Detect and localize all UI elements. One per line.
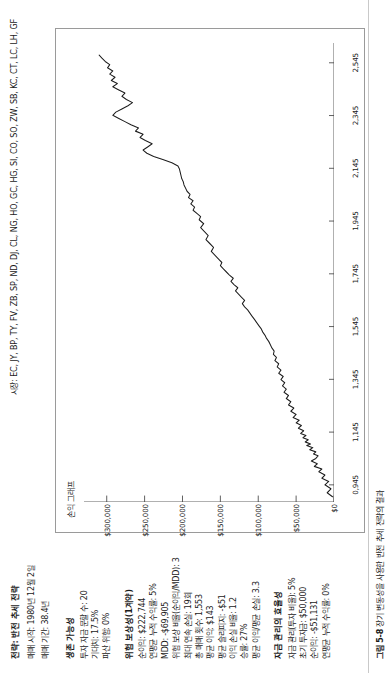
- x-axis-tick-label: 2,345: [351, 106, 360, 126]
- equity-curve-line: [99, 55, 332, 497]
- y-axis-tick-label: $200,000: [178, 504, 187, 537]
- x-axis-tick-label: 1,745: [351, 264, 360, 284]
- x-axis-tick-label: 0,945: [351, 475, 360, 495]
- stat-group-heading: 위험 보상성(1계약): [122, 539, 134, 659]
- stat-item: MDD: -$69,905: [160, 539, 171, 659]
- chart-plot-area: [84, 43, 334, 502]
- document-page: 시장: EC, JY, BP, TY, FV, ZB, SP, ND, DJ, …: [0, 0, 391, 673]
- x-axis-tick-label: 1,145: [351, 422, 360, 442]
- figure-caption: 그림 5-8 장기 변동성을 사용한 반전 추세 전략의 결과: [374, 490, 385, 659]
- stat-item: 평균 이익: $143: [205, 539, 216, 659]
- chart-x-axis-labels: 0,9451,1451,3451,5451,7451,9452,1452,345…: [336, 43, 360, 502]
- y-axis-tick-label: $100,000: [254, 504, 263, 537]
- stat-item: 위험 보상 비율(순이익/MDD): 3: [171, 539, 182, 659]
- x-axis-tick-label: 1,345: [351, 370, 360, 390]
- strategy-title: 전략: 반전 추세 전략: [8, 359, 20, 659]
- y-axis-tick-label: $50,000: [292, 504, 301, 532]
- chart-title: 손익 그래프: [65, 482, 76, 518]
- y-axis-tick-label: $150,000: [216, 504, 225, 537]
- stat-item: 파산 위험: 0%: [101, 539, 112, 659]
- stat-group: 위험 보상성(1계약)순이익: $222,744연평균 누적 수익률: 5%MD…: [122, 539, 262, 659]
- stat-item: 순이익: -$51,131: [309, 539, 320, 659]
- x-axis-tick-label: 2,145: [351, 159, 360, 179]
- stat-group-heading: 자금 관리의 효율성: [271, 539, 283, 659]
- page-rotator: 시장: EC, JY, BP, TY, FV, ZB, SP, ND, DJ, …: [0, 0, 391, 673]
- x-axis-tick-label: 1,545: [351, 317, 360, 337]
- x-axis-tick-label: 1,945: [351, 211, 360, 231]
- stat-item: 초기 투자금: $50,000: [298, 539, 309, 659]
- stat-item: 승률: 27%: [239, 539, 250, 659]
- stat-item: 이익 손실 비율: 1.2: [228, 539, 239, 659]
- y-axis-tick-label: $300,000: [102, 504, 111, 537]
- equity-chart: 손익 그래프 $0$50,000$100,000$150,000$200,000…: [55, 28, 365, 533]
- x-axis-tick-label: 2,545: [351, 53, 360, 73]
- equity-curve-svg: [84, 43, 334, 502]
- stat-item: 자금 관리(투자 비율): 5%: [287, 539, 298, 659]
- stat-item: 평균 이익/평균 손실: 3.3: [251, 539, 262, 659]
- stat-item: 총 매매 횟수: 1,553: [194, 539, 205, 659]
- stat-item: 최대 연속 손실: 19회: [183, 539, 194, 659]
- statistics-panel: 생존 가능성투자 자금 문할 수: 20기대치: 17.5%파산 위험: 0%위…: [63, 539, 341, 659]
- x-axis-ticks: [329, 63, 334, 485]
- y-axis-tick-label: $250,000: [140, 504, 149, 537]
- stat-group-heading: 생존 가능성: [63, 539, 75, 659]
- figure-caption-text: 장기 변동성을 사용한 반전 추세 전략의 결과: [376, 490, 385, 626]
- figure-number: 그림 5-8: [376, 629, 385, 659]
- stat-group: 생존 가능성투자 자금 문할 수: 20기대치: 17.5%파산 위험: 0%: [63, 539, 113, 659]
- chart-y-axis-labels: $0$50,000$100,000$150,000$200,000$250,00…: [84, 502, 334, 532]
- trade-period-line: 매매 기간: 38.4년: [39, 359, 50, 659]
- stat-item: 기대치: 17.5%: [90, 539, 101, 659]
- trade-start-line: 매매 시작: 1980년 12월 2일: [25, 359, 36, 659]
- stat-group: 자금 관리의 효율성자금 관리(투자 비율): 5%초기 투자금: $50,00…: [271, 539, 332, 659]
- stat-item: 연평균 누적 수익률: 5%: [148, 539, 159, 659]
- footer-rule: [368, 0, 369, 673]
- stat-item: 순이익: $222,744: [137, 539, 148, 659]
- stat-item: 투자 자금 문할 수: 20: [79, 539, 90, 659]
- strategy-header-block: 전략: 반전 추세 전략 매매 시작: 1980년 12월 2일 매매 기간: …: [8, 359, 53, 659]
- y-axis-ticks: [107, 496, 334, 502]
- y-axis-tick-label: $0: [330, 504, 339, 513]
- stat-item: 평균 슬리피지: -$51: [217, 539, 228, 659]
- stat-item: 연평균 누적 수익률: 0%: [321, 539, 332, 659]
